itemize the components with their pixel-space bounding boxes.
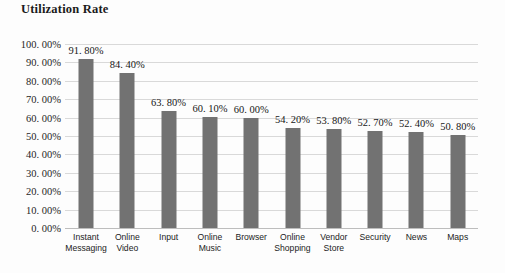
x-tick-label-text: Instant Messaging	[65, 232, 107, 254]
x-tick-label-text: Browser	[230, 232, 272, 243]
y-tick-label: 70. 00%	[3, 94, 61, 105]
bar-value-label: 52. 70%	[358, 117, 393, 128]
x-tick-label: News	[395, 232, 437, 243]
x-tick-label-text: Maps	[437, 232, 479, 243]
chart-title: Utilization Rate	[21, 2, 109, 17]
x-tick-label-text: Input	[148, 232, 190, 243]
x-tick-label: Browser	[230, 232, 272, 243]
y-tick-label: 10. 00%	[3, 204, 61, 215]
y-tick-label: 90. 00%	[3, 57, 61, 68]
y-tick-label: 30. 00%	[3, 167, 61, 178]
bar[interactable]	[368, 131, 383, 228]
bar[interactable]	[450, 135, 465, 228]
y-tick-label: 100. 00%	[3, 39, 61, 50]
chart-figure: Utilization Rate 100. 00%90. 00%80. 00%7…	[0, 0, 505, 273]
x-tick-label: Online Video	[106, 232, 148, 254]
bar-group: 91. 80%	[65, 44, 107, 228]
y-tick-label: 80. 00%	[3, 75, 61, 86]
bar-group: 52. 40%	[395, 44, 437, 228]
y-tick-label: 20. 00%	[3, 186, 61, 197]
bar[interactable]	[409, 132, 424, 228]
bar-value-label: 84. 40%	[110, 59, 145, 70]
x-tick-label: Online Music	[189, 232, 231, 254]
bar-value-label: 53. 80%	[316, 115, 351, 126]
x-tick-label: Online Shopping	[272, 232, 314, 254]
bar-group: 84. 40%	[106, 44, 148, 228]
y-tick-label: 0. 00%	[3, 223, 61, 234]
x-tick-label-text: Online Shopping	[272, 232, 314, 254]
bar[interactable]	[285, 128, 300, 228]
y-axis: 100. 00%90. 00%80. 00%70. 00%60. 00%50. …	[0, 44, 61, 228]
x-tick-label: Input	[148, 232, 190, 243]
bar-group: 53. 80%	[313, 44, 355, 228]
x-axis: Instant MessagingOnline VideoInputOnline…	[65, 232, 478, 270]
x-tick-label: Maps	[437, 232, 479, 243]
bar[interactable]	[79, 59, 94, 228]
bar-value-label: 60. 00%	[234, 104, 269, 115]
bar-value-label: 54. 20%	[275, 114, 310, 125]
x-tick-label: Security	[354, 232, 396, 243]
bar[interactable]	[161, 111, 176, 228]
y-tick-label: 60. 00%	[3, 112, 61, 123]
bar-group: 50. 80%	[437, 44, 479, 228]
x-tick-label-text: Online Video	[106, 232, 148, 254]
x-tick-label: Instant Messaging	[65, 232, 107, 254]
y-tick-label: 50. 00%	[3, 131, 61, 142]
x-tick-label: Vendor Store	[313, 232, 355, 254]
plot-area: 91. 80%84. 40%63. 80%60. 10%60. 00%54. 2…	[65, 44, 478, 228]
bar-value-label: 60. 10%	[192, 103, 227, 114]
bar-value-label: 91. 80%	[69, 45, 104, 56]
bar-value-label: 50. 80%	[440, 121, 475, 132]
bar-group: 63. 80%	[148, 44, 190, 228]
bar-group: 54. 20%	[272, 44, 314, 228]
gridline	[65, 228, 478, 229]
x-tick-label-text: Security	[354, 232, 396, 243]
bar[interactable]	[244, 118, 259, 228]
bar[interactable]	[326, 129, 341, 228]
bar[interactable]	[202, 117, 217, 228]
bar-group: 60. 00%	[230, 44, 272, 228]
bar-value-label: 52. 40%	[399, 118, 434, 129]
x-tick-label-text: Online Music	[189, 232, 231, 254]
bar-value-label: 63. 80%	[151, 97, 186, 108]
bar-group: 52. 70%	[354, 44, 396, 228]
bar-group: 60. 10%	[189, 44, 231, 228]
x-tick-label-text: Vendor Store	[313, 232, 355, 254]
x-tick-label-text: News	[395, 232, 437, 243]
bar[interactable]	[120, 73, 135, 228]
y-tick-label: 40. 00%	[3, 149, 61, 160]
